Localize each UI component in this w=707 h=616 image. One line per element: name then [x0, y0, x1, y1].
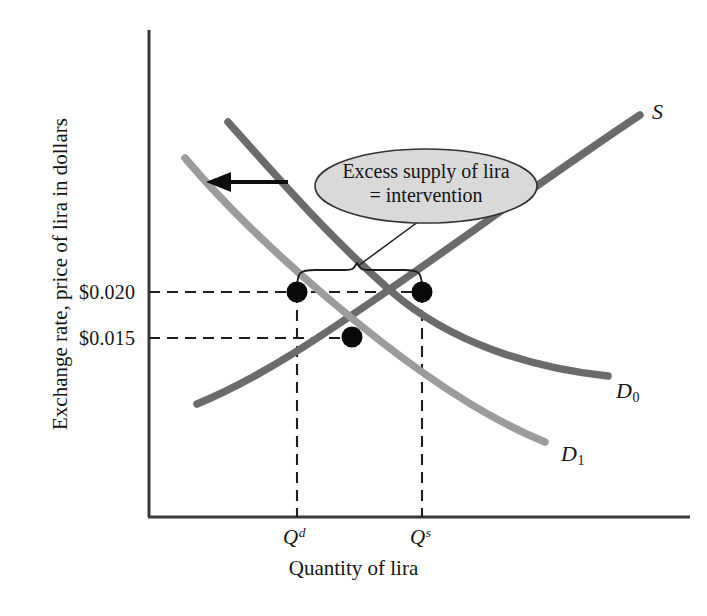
callout-ellipse [315, 149, 537, 223]
chart-canvas [0, 0, 707, 616]
x-tick-qd-base: Q [283, 525, 298, 549]
demand-d0-label-text: D [616, 378, 632, 403]
x-tick-label-qd: Qd [283, 525, 305, 550]
demand-d0-label-subscript: 0 [632, 390, 639, 405]
demand-d1-label-subscript: 1 [577, 453, 584, 468]
demand-d1-curve-label: D1 [561, 441, 584, 469]
supply-curve-label-text: S [652, 99, 663, 124]
point-new-equilibrium-marker [342, 327, 363, 348]
x-tick-qd-superscript: d [299, 525, 306, 540]
x-tick-label-qs: Qs [410, 525, 431, 550]
y-axis-title: Exchange rate, price of lira in dollars [48, 118, 73, 430]
x-tick-qs-base: Q [410, 525, 425, 549]
point-qs-marker [412, 282, 433, 303]
y-tick-label-015: $0.015 [79, 327, 135, 351]
x-tick-qs-superscript: s [426, 525, 431, 540]
y-tick-label-020: $0.020 [79, 281, 135, 305]
demand-d1-label-text: D [561, 441, 577, 466]
point-qd-marker [287, 282, 308, 303]
supply-demand-figure: Excess supply of lira = intervention $0.… [0, 0, 707, 616]
demand-d0-curve-label: D0 [616, 378, 639, 406]
supply-curve-label: S [652, 99, 663, 125]
x-axis-title: Quantity of lira [0, 556, 707, 581]
